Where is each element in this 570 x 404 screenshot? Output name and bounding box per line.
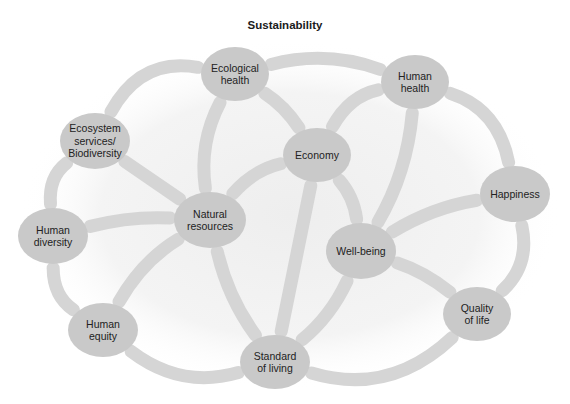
node-ecological-health: Ecologicalhealth (201, 47, 269, 101)
node-ecosystem-services: Ecosystemservices/Biodiversity (60, 113, 130, 169)
node-label: of life (464, 314, 489, 326)
node-label: health (401, 82, 430, 94)
node-label: Natural (193, 208, 227, 220)
node-natural-resources: Naturalresources (174, 192, 246, 248)
node-label: Human (398, 70, 432, 82)
node-label: diversity (34, 236, 73, 248)
node-label: health (221, 74, 250, 86)
node-happiness: Happiness (480, 166, 550, 222)
node-standard-of-living: Standardof living (240, 335, 310, 389)
node-label: Ecosystem (69, 122, 121, 134)
node-economy: Economy (283, 128, 351, 182)
node-label: of living (257, 362, 293, 374)
node-well-being: Well-being (326, 223, 396, 279)
node-label: Biodiversity (68, 147, 122, 159)
node-label: Quality (461, 302, 494, 314)
node-label: Ecological (211, 62, 259, 74)
node-label: resources (187, 220, 233, 232)
node-label: services/ (74, 135, 116, 147)
sustainability-diagram: EcologicalhealthHumanhealthEcosystemserv… (0, 0, 570, 404)
node-label: Human (36, 224, 70, 236)
node-human-equity: Humanequity (68, 303, 138, 357)
node-label: Human (86, 318, 120, 330)
node-label: Economy (295, 149, 340, 161)
node-human-health: Humanhealth (381, 55, 449, 109)
node-label: equity (89, 330, 118, 342)
node-label: Happiness (490, 188, 540, 200)
node-human-diversity: Humandiversity (18, 208, 88, 264)
node-label: Standard (254, 350, 297, 362)
node-label: Well-being (336, 245, 386, 257)
node-quality-of-life: Qualityof life (443, 287, 511, 341)
